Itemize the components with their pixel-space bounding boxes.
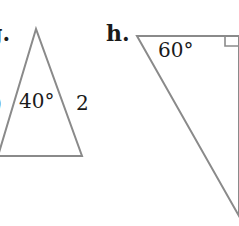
right-angle-marker (225, 36, 239, 46)
side-label-g: 2 (76, 93, 89, 113)
angle-label-g: 40° (19, 91, 54, 111)
problem-label-g: g. (0, 22, 10, 44)
figure-canvas: g. 40° 2 ) h. 60° (0, 0, 239, 226)
angle-label-h: 60° (158, 40, 193, 60)
triangle-h (137, 36, 239, 216)
side-label-g-left-partial: ) (0, 93, 2, 113)
problem-label-h: h. (106, 22, 130, 44)
